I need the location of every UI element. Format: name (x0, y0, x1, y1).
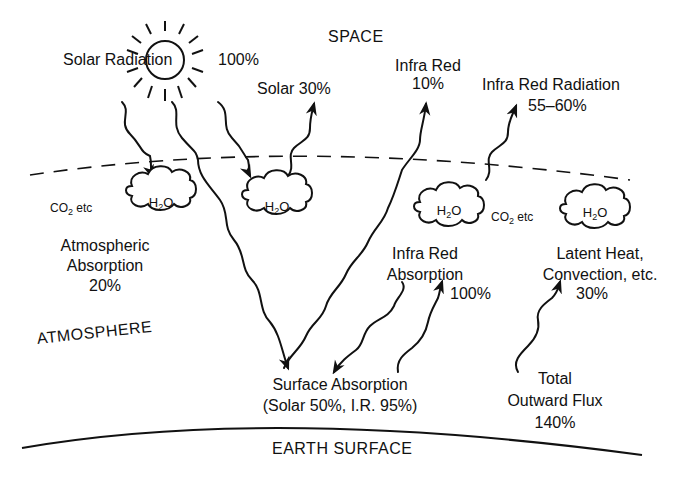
arrow-solar-to-atm-absorption (122, 102, 152, 176)
atmosphere-boundary-dashed (30, 156, 630, 180)
label-atm-abs-pct: 20% (40, 276, 170, 296)
label-latent-pct: 30% (576, 285, 608, 303)
label-solar-radiation: Solar Radiation (63, 51, 172, 69)
cloud-label-left: H2O (131, 195, 191, 212)
label-ir-absorption: Infra Red Absorption (365, 243, 485, 285)
label-latent-line1: Latent Heat, (520, 243, 680, 264)
label-ir-abs-line1: Infra Red (365, 243, 485, 264)
label-ir-abs-pct: 100% (450, 285, 491, 303)
cloud-label-center: H2O (247, 199, 307, 216)
label-latent-heat: Latent Heat, Convection, etc. (520, 243, 680, 285)
label-total-outward-flux: Total Outward Flux 140% (480, 368, 630, 434)
region-label-space: SPACE (328, 28, 384, 46)
label-ir-radiation: Infra Red Radiation (482, 76, 620, 94)
label-solar-reflected: Solar 30% (257, 80, 331, 98)
greenhouse-energy-balance-diagram: SPACE ATMOSPHERE EARTH SURFACE Solar Rad… (0, 0, 698, 482)
label-surface-line1: Surface Absorption (230, 374, 450, 395)
arrow-ir-absorption-100pct (398, 282, 442, 372)
arrow-solar-reflected (288, 104, 314, 176)
label-atmospheric-absorption: Atmospheric Absorption 20% (40, 236, 170, 296)
label-surface-absorption: Surface Absorption (Solar 50%, I.R. 95%) (230, 374, 450, 416)
label-infra-red-line1: Infra Red (378, 57, 478, 75)
region-label-earth-surface: EARTH SURFACE (272, 440, 412, 458)
label-surface-line2: (Solar 50%, I.R. 95%) (230, 395, 450, 416)
arrow-ir-escape-10pct (284, 104, 426, 368)
label-ir-abs-line2: Absorption (365, 264, 485, 285)
label-latent-line2: Convection, etc. (520, 264, 680, 285)
label-infra-red-escape: Infra Red 10% (378, 57, 478, 93)
label-total-line2: Outward Flux (480, 390, 630, 412)
label-total-line1: Total (480, 368, 630, 390)
label-total-pct: 140% (480, 412, 630, 434)
cloud-label-right-2: H2O (565, 205, 625, 222)
arrow-solar-to-surface (172, 102, 288, 368)
arrow-ir-radiation-55-60pct (486, 106, 516, 180)
label-co2-left: CO2 etc (50, 199, 92, 221)
label-atm-abs-line1: Atmospheric (40, 236, 170, 256)
label-co2-right: CO2 etc (491, 208, 533, 230)
label-atm-abs-line2: Absorption (40, 256, 170, 276)
arrow-ir-back-radiation (334, 282, 404, 372)
label-solar-radiation-pct: 100% (218, 51, 259, 69)
cloud-label-right-1: H2O (419, 203, 479, 220)
arrow-solar-to-center-cloud (218, 102, 250, 176)
label-ir-radiation-pct: 55–60% (528, 97, 587, 115)
label-infra-red-pct: 10% (378, 75, 478, 93)
arrow-total-to-latent-heat (516, 282, 560, 372)
